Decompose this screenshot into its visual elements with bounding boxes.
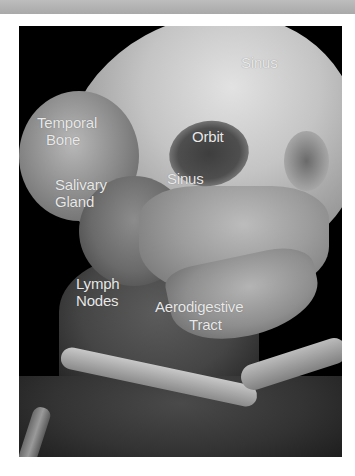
label-lymph-line1: Lymph [76, 275, 119, 292]
label-salivary-line2: Gland [55, 193, 94, 210]
label-orbit: Orbit [192, 128, 224, 145]
label-aerodigestive-line1: Aerodigestive [155, 298, 243, 315]
label-lymph-line2: Nodes [76, 292, 118, 309]
label-temporal-line2: Bone [46, 131, 80, 148]
label-salivary-line1: Salivary [55, 176, 107, 193]
ct-rendering-image: Sinus Temporal Bone Orbit Sinus Salivary… [19, 26, 342, 457]
label-aerodigestive-line2: Tract [189, 316, 222, 333]
label-sinus-lower: Sinus [167, 170, 204, 187]
orbit-socket-far [284, 131, 329, 191]
top-bar [0, 0, 355, 14]
label-sinus-top: Sinus [241, 54, 278, 71]
label-temporal-line1: Temporal [37, 114, 97, 131]
